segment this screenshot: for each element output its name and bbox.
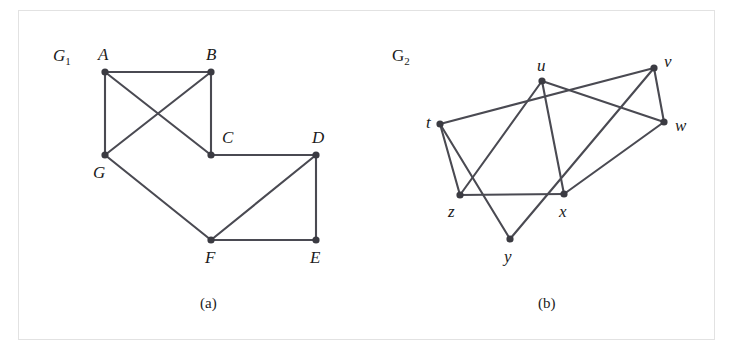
vertex-w [660,118,667,125]
vertex-E [312,236,319,243]
vertex-x [560,190,567,197]
vertex-v [650,64,657,71]
vertex-label-t: t [426,114,431,131]
vertex-label-u: u [537,57,546,74]
edge-u-x [542,81,564,194]
vertex-label-B: B [206,46,216,63]
vertex-label-w: w [675,117,686,134]
vertex-label-z: z [448,203,455,220]
figure-canvas: ABCDEFGtuvwxyzG1G2(a)(b) [0,0,736,352]
vertex-label-A: A [98,46,108,63]
edge-t-z [440,124,460,195]
vertex-label-v: v [664,53,672,70]
edge-x-z [460,194,564,195]
edge-v-w [654,68,664,122]
subfigure-caption-1: (a) [200,296,217,311]
vertex-label-x: x [559,203,567,220]
vertex-y [506,235,513,242]
vertex-label-C: C [222,129,233,146]
vertex-B [207,68,214,75]
edge-D-F [211,155,316,240]
graph-G2-edges [440,68,664,239]
vertex-D [312,151,319,158]
graph-name-label-2: G2 [392,47,410,67]
vertex-u [538,77,545,84]
edge-u-w [542,81,664,122]
edge-t-v [440,68,654,124]
vertex-label-F: F [205,249,215,266]
vertex-label-D: D [312,129,324,146]
graph-drawing-layer [0,0,736,352]
graph-name-label-1: G1 [53,47,71,67]
vertex-A [101,68,108,75]
vertex-G [101,151,108,158]
vertex-t [436,120,443,127]
vertex-z [456,191,463,198]
graph-G2-vertices [436,64,667,242]
edge-u-z [460,81,542,195]
vertex-F [207,236,214,243]
edge-F-G [105,155,211,240]
vertex-label-E: E [310,249,320,266]
vertex-label-y: y [504,248,512,265]
subfigure-caption-2: (b) [538,296,556,311]
vertex-C [207,151,214,158]
vertex-label-G: G [93,164,105,181]
